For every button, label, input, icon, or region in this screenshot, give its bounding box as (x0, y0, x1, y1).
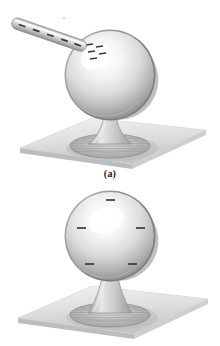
figure-panel-a: (a) (0, 0, 220, 186)
charged-rod (10, 16, 87, 52)
speck-mark (63, 17, 65, 19)
panel-b-illustration (0, 178, 220, 346)
metal-sphere (65, 191, 159, 282)
panel-a-illustration (0, 0, 220, 186)
figure-panel-b: (b) (0, 178, 220, 346)
